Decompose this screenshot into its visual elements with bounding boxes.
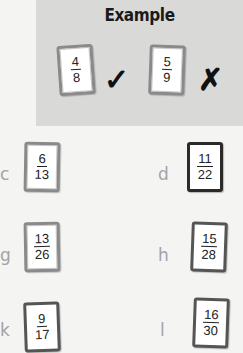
example-card-incorrect: 5 9 [148, 44, 186, 95]
fraction-card-h: 1528 [190, 221, 228, 272]
item-label-k: k [0, 320, 10, 340]
example-card-correct: 4 8 [56, 44, 95, 96]
fraction-card-c: 613 [24, 142, 61, 193]
fraction-card-l: 1630 [192, 297, 230, 348]
fraction-card-d: 1122 [187, 142, 223, 192]
item-label-g: g [0, 245, 11, 265]
item-label-c: c [0, 164, 9, 184]
example-panel: Example 4 8 ✓ 5 9 ✗ [36, 0, 243, 126]
example-title: Example [52, 4, 228, 25]
fraction-card-g: 1326 [24, 222, 61, 273]
item-label-h: h [158, 245, 169, 265]
item-label-l: l [160, 320, 165, 340]
fraction: 5 9 [162, 55, 172, 85]
fraction: 4 8 [70, 55, 81, 86]
item-label-d: d [158, 164, 169, 184]
cross-icon: ✗ [198, 62, 223, 97]
fraction-card-k: 917 [23, 301, 61, 352]
checkmark-icon: ✓ [104, 62, 129, 97]
